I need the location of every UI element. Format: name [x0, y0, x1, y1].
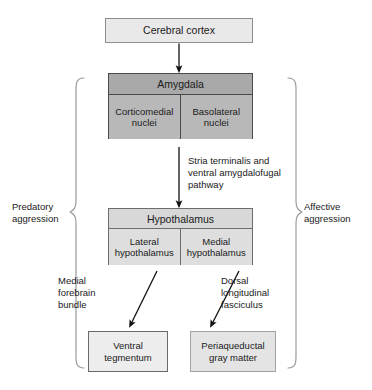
node-cerebral-cortex: Cerebral cortex — [105, 18, 253, 43]
node-medial-hypothalamus: Medial hypothalamus — [181, 229, 253, 265]
connector-layer — [0, 0, 372, 390]
bracket-left-predatory — [70, 78, 84, 368]
node-lateral-hypothalamus-label: Lateral hypothalamus — [109, 236, 180, 259]
bracket-label-predatory-aggression: Predatory aggression — [12, 201, 70, 225]
pathway-label-stria-terminalis: Stria terminalis and ventral amygdalofug… — [188, 155, 294, 191]
node-basolateral-nuclei-label: Basolateral nuclei — [181, 106, 253, 129]
node-hypothalamus-group: Hypothalamus Lateral hypothalamus Medial… — [108, 208, 253, 265]
hypothalamus-divisions-row: Lateral hypothalamus Medial hypothalamus — [109, 229, 252, 265]
node-hypothalamus-header: Hypothalamus — [109, 209, 252, 229]
node-corticomedial-nuclei-label: Corticomedial nuclei — [109, 106, 180, 129]
node-hypothalamus-header-label: Hypothalamus — [147, 213, 214, 225]
bracket-label-affective-aggression: Affective aggression — [304, 201, 366, 225]
node-ventral-tegmentum: Ventral tegmentum — [88, 331, 168, 372]
amygdala-nuclei-row: Corticomedial nuclei Basolateral nuclei — [109, 95, 252, 139]
node-amygdala-header-label: Amygdala — [157, 78, 204, 90]
pathway-label-dorsal-longitudinal-fasciculus: Dorsal longitudinal fasciculus — [221, 275, 289, 311]
node-periaqueductal-gray-matter: Periaqueductal gray matter — [190, 331, 276, 372]
node-amygdala-group: Amygdala Corticomedial nuclei Basolatera… — [108, 73, 253, 139]
bracket-right-affective — [288, 78, 302, 368]
aggression-pathway-diagram: Cerebral cortex Amygdala Corticomedial n… — [0, 0, 372, 390]
node-medial-hypothalamus-label: Medial hypothalamus — [181, 236, 253, 259]
pathway-label-medial-forebrain-bundle: Medial forebrain bundle — [58, 275, 120, 311]
node-corticomedial-nuclei: Corticomedial nuclei — [109, 95, 181, 139]
node-ventral-tegmentum-label: Ventral tegmentum — [89, 340, 167, 362]
node-cerebral-cortex-label: Cerebral cortex — [143, 24, 215, 36]
node-amygdala-header: Amygdala — [109, 74, 252, 95]
node-periaqueductal-gray-matter-label: Periaqueductal gray matter — [191, 340, 275, 362]
node-basolateral-nuclei: Basolateral nuclei — [181, 95, 253, 139]
node-lateral-hypothalamus: Lateral hypothalamus — [109, 229, 181, 265]
arrow-mfb-to-ventral-tegmentum — [131, 271, 157, 324]
